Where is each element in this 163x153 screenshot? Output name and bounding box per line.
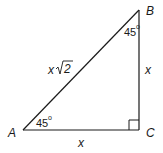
triangle-diagram: B C A 45 o 45 o x 2 x x <box>0 0 163 153</box>
vertex-label-c: C <box>146 126 155 140</box>
right-angle-marker <box>129 120 139 130</box>
degree-symbol-a: o <box>48 114 52 121</box>
hypotenuse-variable: x <box>47 63 55 77</box>
angle-label-a: 45 o <box>36 114 52 129</box>
angle-label-b: 45 o <box>124 23 140 38</box>
angle-value-b: 45 <box>124 26 136 38</box>
vertex-label-b: B <box>146 4 154 18</box>
hypotenuse-ab <box>23 10 139 130</box>
hypotenuse-radicand: 2 <box>63 62 71 76</box>
side-label-bc: x <box>144 63 152 77</box>
side-label-ac: x <box>77 136 85 150</box>
hypotenuse-label: x 2 <box>47 61 73 77</box>
vertex-label-a: A <box>7 126 16 140</box>
angle-value-a: 45 <box>36 117 48 129</box>
degree-symbol-b: o <box>136 23 140 30</box>
